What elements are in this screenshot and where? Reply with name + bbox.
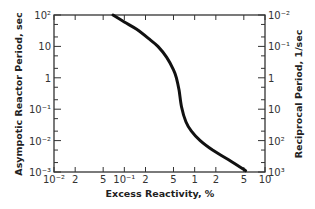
x-tick-label: 1	[191, 174, 197, 185]
y2-tick-label: 10⁻¹	[268, 41, 290, 52]
x-axis-title: Excess Reactivity, %	[106, 188, 215, 199]
y2-tick-label: 10	[268, 104, 281, 115]
y2-axis-ticks: 10⁻²10⁻¹11010²10³	[258, 10, 290, 178]
y-axis-ticks: 10²10110⁻¹10⁻²10⁻³	[29, 10, 265, 178]
y2-tick-label: 10²	[268, 136, 285, 147]
y2-tick-label: 10⁻²	[268, 10, 290, 21]
x-tick-label: 5	[100, 174, 106, 185]
y-tick-label: 10	[38, 41, 51, 52]
y2-tick-label: 1	[268, 73, 274, 84]
x-tick-label: 5	[241, 174, 247, 185]
x-tick-label: 5	[170, 174, 176, 185]
y-tick-label: 10⁻²	[29, 136, 51, 147]
x-tick-label: 2	[213, 174, 219, 185]
y-tick-label: 10⁻¹	[29, 104, 51, 115]
plot-frame	[54, 15, 265, 172]
x-tick-label: 2	[142, 174, 148, 185]
x-axis-ticks: 10⁻²2510⁻¹2512510	[43, 15, 271, 185]
y-axis-title: Asympotic Reactor Period, sec	[13, 12, 24, 175]
y-tick-label: 1	[45, 73, 51, 84]
y-tick-label: 10²	[34, 10, 51, 21]
y2-tick-label: 10³	[268, 167, 285, 178]
period-curve	[113, 15, 246, 171]
y-tick-label: 10⁻³	[29, 167, 51, 178]
reactor-period-chart: 10⁻²2510⁻¹2512510 10²10110⁻¹10⁻²10⁻³ 10⁻…	[0, 0, 315, 209]
x-tick-label: 10⁻¹	[113, 174, 135, 185]
y2-axis-title: Reciprocal Period, 1/sec	[293, 30, 304, 159]
x-tick-label: 2	[72, 174, 78, 185]
